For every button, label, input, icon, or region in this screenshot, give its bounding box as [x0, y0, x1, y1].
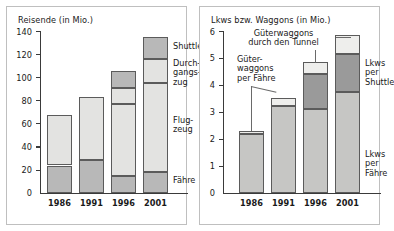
bar-2001-segment-shuttle — [143, 37, 168, 59]
right-ylabel-6: 6 — [199, 27, 215, 37]
right-ylabel-2: 2 — [199, 134, 215, 144]
bar-1991-passengers[interactable] — [79, 31, 104, 193]
bar-1986-segment-lkws-faehre — [239, 134, 264, 193]
left-ylabel-100: 100 — [6, 73, 32, 83]
left-y-axis — [40, 31, 41, 194]
right-chart-title: Lkws bzw. Waggons (in Mio.) — [211, 15, 331, 25]
annotation-gueterwaggons-tunnel: Güterwaggons durch den Tunnel — [231, 29, 336, 48]
bar-1986-passengers[interactable] — [47, 31, 72, 193]
bar-1991-segment-lkws-faehre — [271, 106, 296, 193]
bar-1991-segment-flugzeug — [79, 97, 104, 159]
left-xlabel-2001: 2001 — [133, 198, 178, 208]
left-ylabel-80: 80 — [6, 96, 32, 106]
right-ylabel-4: 4 — [199, 80, 215, 90]
annotation-gueterwaggons-faehre: Güter- waggons per Fähre — [237, 55, 297, 83]
right-x-axis — [223, 193, 381, 194]
bar-1996-segment-gueterwaggons-tunnel — [303, 62, 328, 74]
bar-2001-segment-flugzeug — [143, 83, 168, 173]
left-ytick-40 — [36, 146, 40, 147]
bar-2001-segment-faehre — [143, 172, 168, 192]
bar-1996-segment-durchgangszug — [111, 88, 136, 104]
bar-1996-segment-lkws-shuttle — [303, 74, 328, 109]
bar-2001-segment-durchgangszug — [143, 59, 168, 83]
leader-line-tunnel-2001 — [336, 37, 351, 38]
right-ytick-5 — [219, 58, 223, 59]
left-chart-title: Reisende (in Mio.) — [18, 15, 93, 25]
right-plot-area: 6 5 4 3 2 1 0 — [223, 31, 381, 194]
bar-1996-segment-lkws-faehre — [303, 109, 328, 193]
bar-1991-segment-faehre — [79, 160, 104, 193]
chart-panel-passengers: Reisende (in Mio.) 140 120 100 80 60 40 … — [0, 0, 193, 231]
left-ytick-120 — [36, 54, 40, 55]
right-ytick-4 — [219, 85, 223, 86]
leader-line-faehre-1986 — [251, 86, 252, 131]
bar-1996-segment-shuttle — [111, 71, 136, 87]
right-xlabel-2001: 2001 — [325, 198, 370, 208]
right-ytick-2 — [219, 139, 223, 140]
bar-1996-segment-faehre — [111, 176, 136, 192]
left-plot-area: 140 120 100 80 60 40 20 0 — [40, 31, 188, 194]
right-ylabel-5: 5 — [199, 53, 215, 63]
left-ytick-80 — [36, 100, 40, 101]
right-ytick-1 — [219, 166, 223, 167]
bar-2001-passengers[interactable] — [143, 31, 168, 193]
legend-label-lkws-faehre: Lkws per Fähre — [365, 150, 387, 178]
bar-2001-freight[interactable] — [335, 31, 360, 193]
left-ylabel-120: 120 — [6, 50, 32, 60]
left-ylabel-140: 140 — [6, 27, 32, 37]
left-x-axis — [40, 193, 188, 194]
chart-panel-freight: Lkws bzw. Waggons (in Mio.) 6 5 4 3 2 1 … — [193, 0, 386, 231]
bar-2001-segment-lkws-faehre — [335, 92, 360, 192]
bar-1986-segment-flugzeug — [47, 115, 72, 165]
bar-1996-passengers[interactable] — [111, 31, 136, 193]
left-ytick-140 — [36, 31, 40, 32]
left-ylabel-60: 60 — [6, 119, 32, 129]
right-ytick-6 — [219, 31, 223, 32]
left-ylabel-40: 40 — [6, 142, 32, 152]
bar-1986-segment-faehre — [47, 166, 72, 193]
bar-1996-segment-flugzeug — [111, 104, 136, 177]
left-ytick-20 — [36, 170, 40, 171]
right-y-axis — [223, 31, 224, 194]
leader-line-tunnel-1996 — [315, 50, 316, 63]
bar-2001-segment-lkws-shuttle — [335, 54, 360, 92]
right-ytick-3 — [219, 112, 223, 113]
bar-1991-segment-gueterwaggons-faehre — [271, 98, 296, 106]
legend-label-lkws-shuttle: Lkws per Shuttle — [365, 59, 394, 87]
right-ylabel-3: 3 — [199, 107, 215, 117]
right-ylabel-1: 1 — [199, 161, 215, 171]
left-ylabel-0: 0 — [6, 188, 32, 198]
left-ytick-100 — [36, 77, 40, 78]
legend-label-flugzeug: Flug- zeug — [173, 116, 193, 135]
left-ylabel-20: 20 — [6, 165, 32, 175]
left-ytick-60 — [36, 123, 40, 124]
right-ylabel-0: 0 — [199, 188, 215, 198]
